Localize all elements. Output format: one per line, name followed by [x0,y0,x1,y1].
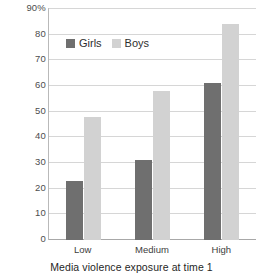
x-tick-label-high: High [212,244,232,255]
bar-boys-low [84,117,101,240]
bar-boys-high [222,24,239,240]
x-axis-tick-labels: LowMediumHigh [48,244,256,258]
x-tick-label-medium: Medium [135,244,169,255]
legend-swatch-girls-icon [66,39,75,48]
y-tick-label-50: 50 [2,106,46,116]
legend-swatch-boys-icon [112,39,121,48]
legend-label: Boys [125,38,149,49]
y-tick-label-30: 30 [2,157,46,167]
y-tick-label-70: 70 [2,55,46,65]
y-tick-label-90%: 90% [2,3,46,13]
y-axis-tick-labels: 0102030405060708090% [0,0,46,280]
legend-item-girls[interactable]: Girls [66,38,102,49]
bar-group-high [187,9,256,240]
y-tick-label-0: 0 [2,234,46,244]
bar-girls-medium [135,160,152,240]
bar-girls-low [66,181,83,240]
legend-label: Girls [79,38,102,49]
x-axis-title: Media violence exposure at time 1 [0,261,263,273]
y-tick-label-40: 40 [2,132,46,142]
legend-item-boys[interactable]: Boys [112,38,149,49]
y-tick-label-10: 10 [2,209,46,219]
y-tick-label-60: 60 [2,80,46,90]
bar-girls-high [204,83,221,240]
bar-chart: e s 2 0102030405060708090% GirlsBoys Low… [0,0,263,280]
x-tick-label-low: Low [74,244,91,255]
y-tick-label-20: 20 [2,183,46,193]
y-tick-label-80: 80 [2,29,46,39]
bar-boys-medium [153,91,170,240]
legend: GirlsBoys [66,38,149,49]
